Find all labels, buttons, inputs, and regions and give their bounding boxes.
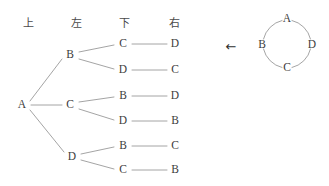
edge-b-c1 [79,45,114,52]
left-arrow-icon: ← [226,40,237,53]
tree-node-level3-1: C [119,38,127,50]
tree-node-level3-2: D [119,64,127,76]
cycle-node-bottom: C [283,62,291,74]
cycle-arc-b-a [264,21,283,40]
tree-node-level4-5: C [171,140,179,152]
tree-node-level3-3: B [119,90,127,102]
tree-node-level3-6: C [119,164,127,176]
tree-node-level2-1: B [66,49,74,61]
column-header-up: 上 [23,14,34,30]
cycle-arc-c-b [264,49,283,68]
tree-node-level4-6: B [171,164,179,176]
tree-node-level4-4: B [171,115,179,127]
edge-a-d [30,110,64,152]
column-header-down: 下 [119,14,130,30]
tree-node-level4-2: C [171,64,179,76]
edge-d-b2 [81,147,114,154]
tree-node-level4-3: D [171,90,179,102]
cycle-node-top: A [283,13,291,25]
cycle-node-right: D [308,39,316,51]
edge-d-c2 [81,160,114,169]
tree-node-level2-2: C [66,99,74,111]
tree-node-level3-5: B [119,140,127,152]
cycle-arc-d-c [292,49,311,68]
cycle-node-left: B [258,39,266,51]
edge-c-b1 [79,97,114,102]
tree-node-level2-3: D [68,151,76,163]
tree-node-level3-4: D [119,115,127,127]
tree-node-level4-1: D [171,38,179,50]
column-header-right: 右 [169,14,180,30]
edge-c-d2 [79,109,114,120]
column-header-left: 左 [71,14,82,30]
diagram-canvas: 上 左 下 右 A B C D C D B D B C D C D B C B … [0,0,329,186]
edge-a-b [30,59,62,101]
edge-layer [0,0,329,186]
edge-b-d1 [79,59,114,69]
cycle-arc-a-d [292,21,311,40]
tree-node-root: A [18,99,26,111]
